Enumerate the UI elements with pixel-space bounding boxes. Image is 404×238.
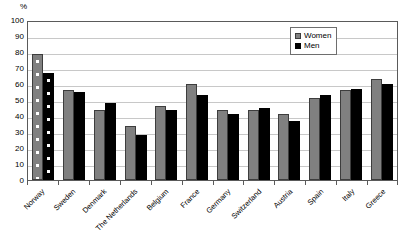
y-axis-tick-label: 0 xyxy=(0,177,24,185)
bar-group xyxy=(90,22,121,180)
bar-women xyxy=(340,90,351,180)
bar-group xyxy=(336,22,367,180)
bar-men xyxy=(74,92,85,180)
legend: Women Men xyxy=(290,27,337,55)
x-axis-label-cell: Austria xyxy=(274,185,305,238)
legend-item-men: Men xyxy=(295,41,331,50)
y-axis-tick-label: 40 xyxy=(0,113,24,121)
x-axis-label-cell: Italy xyxy=(336,185,367,238)
bar-men xyxy=(166,110,177,180)
bar-group xyxy=(28,22,59,180)
x-axis-category-text: Norway xyxy=(22,187,46,211)
bar-group xyxy=(366,22,397,180)
plot-area xyxy=(27,21,398,181)
y-axis-tick-label: 100 xyxy=(0,17,24,25)
legend-swatch-men-icon xyxy=(295,43,301,49)
x-axis-label-cell: Belgium xyxy=(151,185,182,238)
legend-swatch-women-icon xyxy=(295,33,301,39)
y-axis-tick-label: 20 xyxy=(0,145,24,153)
legend-label-women: Women xyxy=(304,31,331,40)
bar-women xyxy=(217,110,228,180)
x-axis-label-cell: The Netherlands xyxy=(120,185,151,238)
y-axis-tick-label: 10 xyxy=(0,161,24,169)
bar-men xyxy=(105,103,116,180)
legend-item-women: Women xyxy=(295,31,331,40)
legend-label-men: Men xyxy=(304,41,320,50)
bar-men xyxy=(259,108,270,180)
bar-men xyxy=(382,84,393,180)
x-axis-category-text: Spain xyxy=(305,187,325,207)
x-axis-labels: NorwaySwedenDenmarkThe NetherlandsBelgiu… xyxy=(27,185,398,238)
bar-men xyxy=(43,73,54,180)
bar-group xyxy=(59,22,90,180)
bar-chart: % 1009080706050403020100 NorwaySwedenDen… xyxy=(0,0,404,238)
x-axis-category-text: Greece xyxy=(363,187,387,211)
y-axis-tick-label: 90 xyxy=(0,33,24,41)
y-axis-unit-label: % xyxy=(20,2,27,11)
bar-group xyxy=(213,22,244,180)
y-axis-tick-label: 70 xyxy=(0,65,24,73)
bar-women xyxy=(186,84,197,180)
bar-women xyxy=(309,98,320,180)
x-axis-label-cell: Greece xyxy=(367,185,398,238)
y-axis-tick-label: 80 xyxy=(0,49,24,57)
bar-group xyxy=(243,22,274,180)
bar-women xyxy=(94,110,105,180)
x-axis-category-text: Italy xyxy=(340,187,356,203)
y-axis-tick-label: 30 xyxy=(0,129,24,137)
x-axis-label-cell: Switzerland xyxy=(243,185,274,238)
y-axis-tick-label: 50 xyxy=(0,97,24,105)
x-axis-label-cell: Spain xyxy=(305,185,336,238)
bar-groups xyxy=(28,22,397,180)
bar-women xyxy=(63,90,74,180)
x-axis-category-text: France xyxy=(179,187,202,210)
bar-women xyxy=(371,79,382,180)
bar-women xyxy=(32,54,43,180)
bar-men xyxy=(228,114,239,180)
bar-men xyxy=(289,121,300,180)
bar-men xyxy=(351,89,362,180)
bar-group xyxy=(182,22,213,180)
y-axis-tick-label: 60 xyxy=(0,81,24,89)
bar-group xyxy=(120,22,151,180)
bar-men xyxy=(320,95,331,180)
bar-men xyxy=(197,95,208,180)
x-axis-category-text: Austria xyxy=(271,187,294,210)
x-axis-label-cell: Norway xyxy=(27,185,58,238)
